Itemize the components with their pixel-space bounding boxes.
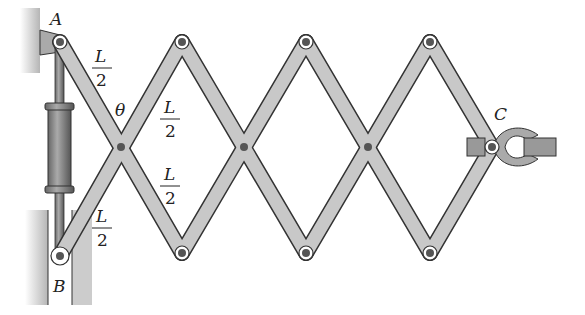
cylinder-body xyxy=(48,108,71,188)
segment-label-2: L 2 xyxy=(160,97,180,141)
svg-text:2: 2 xyxy=(96,70,107,90)
scissor-linkage-diagram: A B C θ L 2 L 2 L 2 L 2 xyxy=(0,0,585,315)
wall-bottom-left xyxy=(25,210,48,305)
label-b: B xyxy=(52,276,66,296)
label-a: A xyxy=(48,9,62,29)
svg-text:L: L xyxy=(94,46,106,66)
linkage-bars xyxy=(60,42,492,256)
segment-label-3: L 2 xyxy=(160,164,180,208)
svg-text:2: 2 xyxy=(97,230,108,250)
label-theta: θ xyxy=(115,100,125,120)
segment-label-1: L 2 xyxy=(92,46,112,90)
svg-text:2: 2 xyxy=(165,188,176,208)
svg-text:L: L xyxy=(163,97,175,117)
label-c: C xyxy=(494,104,507,124)
svg-text:L: L xyxy=(95,206,107,226)
svg-text:L: L xyxy=(163,164,175,184)
svg-text:2: 2 xyxy=(165,121,176,141)
wall-top xyxy=(20,8,40,73)
segment-label-4: L 2 xyxy=(92,206,112,250)
